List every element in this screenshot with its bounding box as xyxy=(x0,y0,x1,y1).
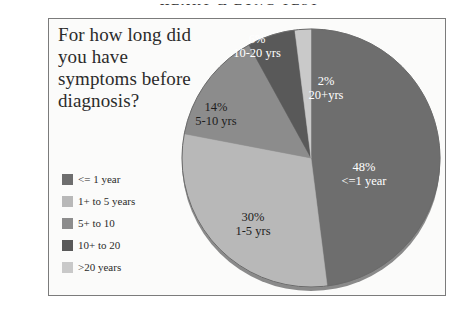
legend-item-label: 1+ to 5 years xyxy=(78,195,135,207)
legend-item-label: <= 1 year xyxy=(78,173,120,185)
legend-item-label: >20 years xyxy=(78,261,121,273)
legend-swatch-icon xyxy=(62,240,73,251)
pie-chart-svg xyxy=(180,22,442,292)
legend-swatch-icon xyxy=(62,196,73,207)
legend-item-label: 5+ to 10 xyxy=(78,217,115,229)
pie-slice xyxy=(311,29,440,286)
pie-chart: 48% <=1 year 30% 1-5 yrs 14% 5-10 yrs 6%… xyxy=(180,22,442,292)
chart-screenshot: HEART & LUNG TEST For how long did you h… xyxy=(0,0,464,314)
page-header-cropped: HEART & LUNG TEST xyxy=(130,0,350,9)
legend-swatch-icon xyxy=(62,218,73,229)
pie-slice-group xyxy=(182,29,440,287)
legend-swatch-icon xyxy=(62,262,73,273)
legend-item-label: 10+ to 20 xyxy=(78,239,120,251)
legend-swatch-icon xyxy=(62,174,73,185)
